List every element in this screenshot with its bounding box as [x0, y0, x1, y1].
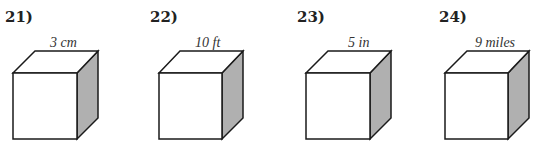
cube-figure	[0, 0, 535, 151]
problem-24: 24) 9 miles	[0, 0, 535, 151]
